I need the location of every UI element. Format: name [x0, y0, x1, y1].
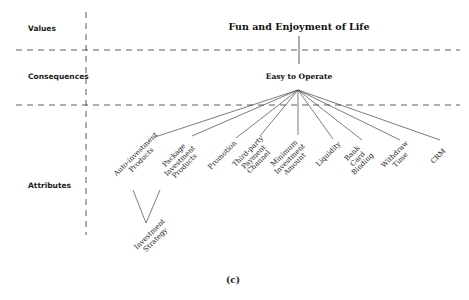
value-node-fun-enjoyment: Fun and Enjoyment of Life — [219, 21, 379, 32]
consequence-node-easy-to-operate: Easy to Operate — [249, 72, 349, 81]
level-label-values: Values — [28, 24, 56, 33]
link-auto-strategy — [133, 190, 146, 223]
link-package-strategy — [146, 190, 160, 223]
figure-caption: (c) — [226, 275, 240, 285]
level-label-attributes: Attributes — [28, 181, 71, 190]
attribute-links — [155, 90, 440, 140]
level-label-consequences: Consequences — [28, 72, 89, 81]
